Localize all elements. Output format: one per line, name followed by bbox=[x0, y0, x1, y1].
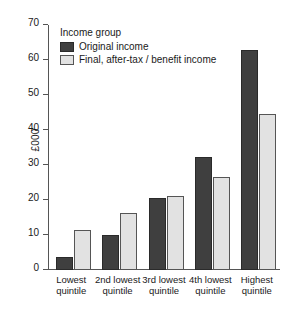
y-axis-tick: 60 bbox=[43, 59, 48, 60]
y-axis-tick: 0 bbox=[43, 269, 48, 270]
x-axis-tick-label-line: Highest bbox=[234, 274, 280, 285]
bar-final-income bbox=[74, 230, 91, 270]
bar-original-income bbox=[102, 235, 119, 270]
x-axis-tick-label: Highestquintile bbox=[234, 274, 280, 296]
y-axis-tick: 30 bbox=[43, 164, 48, 165]
legend-item-final-income: Final, after-tax / benefit income bbox=[60, 54, 216, 65]
y-axis-tick-label: 50 bbox=[28, 87, 39, 98]
y-axis-tick-label: 30 bbox=[28, 157, 39, 168]
x-axis-tick-label-line: quintile bbox=[141, 285, 187, 296]
bar-original-income bbox=[195, 157, 212, 270]
bar-group bbox=[241, 25, 276, 270]
x-axis-tick-label: 4th lowestquintile bbox=[187, 274, 233, 296]
y-axis-tick: 70 bbox=[43, 24, 48, 25]
y-axis-tick-label: 10 bbox=[28, 227, 39, 238]
legend-label-original-income: Original income bbox=[79, 41, 148, 52]
y-axis-tick: 10 bbox=[43, 234, 48, 235]
bar-final-income bbox=[120, 213, 137, 270]
x-axis-tick-label-line: quintile bbox=[94, 285, 140, 296]
y-axis-tick-label: 60 bbox=[28, 52, 39, 63]
y-axis-tick-label: 0 bbox=[33, 262, 39, 273]
legend-title: Income group bbox=[60, 27, 216, 38]
x-axis-tick-label-line: 4th lowest bbox=[187, 274, 233, 285]
x-axis-tick-label-line: quintile bbox=[187, 285, 233, 296]
legend-swatch-final-income bbox=[60, 55, 74, 65]
chart-legend: Income group Original income Final, afte… bbox=[60, 27, 216, 67]
bar-final-income bbox=[167, 196, 184, 270]
x-axis-tick-label-line: 2nd lowest bbox=[94, 274, 140, 285]
legend-item-original-income: Original income bbox=[60, 41, 216, 52]
x-axis-tick-label: Lowestquintile bbox=[48, 274, 94, 296]
x-axis-tick-label-line: Lowest bbox=[48, 274, 94, 285]
y-axis-tick-label: 70 bbox=[28, 17, 39, 28]
x-axis-tick-label-line: quintile bbox=[48, 285, 94, 296]
bar-chart: £000 010203040506070Lowestquintile2nd lo… bbox=[0, 0, 295, 312]
x-axis-tick-label-line: 3rd lowest bbox=[141, 274, 187, 285]
legend-label-final-income: Final, after-tax / benefit income bbox=[79, 54, 216, 65]
y-axis-tick-label: 40 bbox=[28, 122, 39, 133]
bar-original-income bbox=[149, 198, 166, 270]
bar-final-income bbox=[213, 177, 230, 270]
y-axis-tick: 40 bbox=[43, 129, 48, 130]
y-axis-tick: 20 bbox=[43, 199, 48, 200]
bar-original-income bbox=[56, 257, 73, 270]
bar-final-income bbox=[259, 114, 276, 270]
y-axis-tick: 50 bbox=[43, 94, 48, 95]
x-axis-tick-label-line: quintile bbox=[234, 285, 280, 296]
x-axis-tick-label: 2nd lowestquintile bbox=[94, 274, 140, 296]
legend-swatch-original-income bbox=[60, 42, 74, 52]
y-axis-tick-label: 20 bbox=[28, 192, 39, 203]
x-axis-tick-label: 3rd lowestquintile bbox=[141, 274, 187, 296]
bar-original-income bbox=[241, 50, 258, 270]
y-axis-line bbox=[48, 25, 49, 270]
